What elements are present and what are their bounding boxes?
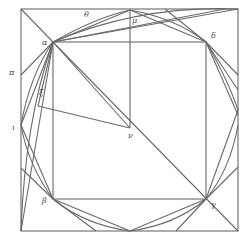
label-alpha: α [42,38,48,47]
label-mu: μ [132,16,137,25]
label-theta: θ [84,10,89,19]
label-xi: ξ [39,88,44,97]
geometric-diagram: α δ β γ μ ν π ι ξ θ [0,0,244,242]
label-delta: δ [211,31,216,40]
label-pi: π [8,68,15,77]
label-beta: β [41,196,47,205]
label-nu: ν [128,131,133,140]
label-gamma: γ [211,200,216,209]
label-iota: ι [12,123,15,132]
